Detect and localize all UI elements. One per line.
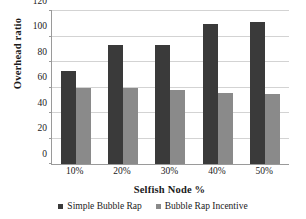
bar-group <box>108 45 138 164</box>
chart-legend: Simple Bubble RapBubble Rap Incentive <box>0 202 306 212</box>
bar <box>155 45 170 164</box>
bar-group <box>203 24 233 164</box>
bar-group <box>250 22 280 164</box>
y-tick-label: 20 <box>38 124 48 134</box>
x-tick-label: 20% <box>100 167 144 177</box>
bar <box>170 90 185 164</box>
bar <box>61 71 76 164</box>
x-tick-label: 30% <box>147 167 191 177</box>
y-tick-label: 40 <box>38 99 48 109</box>
bar <box>108 45 123 164</box>
bar <box>250 22 265 164</box>
x-axis-ticks: 10%20%30%40%50% <box>51 167 288 177</box>
bar-group <box>61 71 91 164</box>
x-tick-label: 50% <box>242 167 286 177</box>
y-tick-label: 80 <box>38 48 48 58</box>
bar <box>218 93 233 164</box>
bars-layer <box>52 11 289 164</box>
bar <box>123 88 138 165</box>
legend-label: Simple Bubble Rap <box>67 202 141 212</box>
y-tick-label: 100 <box>33 22 47 32</box>
bar-group <box>155 45 185 164</box>
x-tick-label: 10% <box>53 167 97 177</box>
bar <box>265 94 280 164</box>
y-tick-label: 0 <box>42 150 47 160</box>
bar-chart: Overhead ratio 020406080100120 10%20%30%… <box>0 0 306 219</box>
y-tick-label: 120 <box>33 0 47 6</box>
bar <box>203 24 218 164</box>
y-tick-label: 60 <box>38 73 48 83</box>
legend-label: Bubble Rap Incentive <box>165 202 248 212</box>
square-marker-dark <box>58 204 63 209</box>
y-axis-title: Overhead ratio <box>12 0 23 109</box>
bar <box>76 88 91 165</box>
legend-item[interactable]: Simple Bubble Rap <box>58 202 141 212</box>
x-tick-label: 40% <box>195 167 239 177</box>
x-axis-title: Selfish Node % <box>51 184 288 195</box>
plot-area: 020406080100120 <box>51 11 289 165</box>
legend-item[interactable]: Bubble Rap Incentive <box>156 202 248 212</box>
square-marker-gray <box>156 204 161 209</box>
